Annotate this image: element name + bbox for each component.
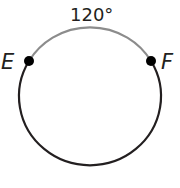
minor-arc-ef — [29, 27, 151, 61]
arc-measure-label: 120° — [70, 4, 113, 25]
major-arc-ef — [19, 61, 161, 165]
circle-diagram: E F 120° — [0, 0, 180, 188]
point-e-label: E — [1, 50, 15, 74]
point-f-label: F — [161, 50, 174, 74]
point-e — [24, 56, 34, 66]
point-f — [146, 56, 156, 66]
